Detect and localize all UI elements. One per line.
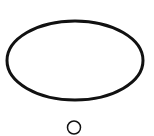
- thought-bubble-ellipse: [7, 21, 143, 100]
- thought-bubble-small-circle: [68, 121, 81, 134]
- diagram-svg: [0, 0, 154, 136]
- thought-bubble-diagram: [0, 0, 154, 136]
